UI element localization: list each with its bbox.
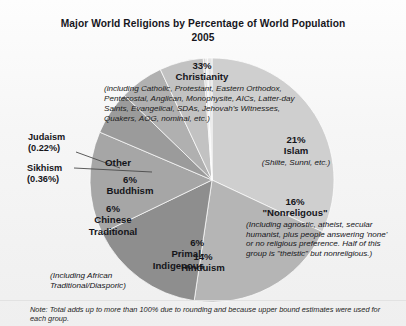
nonreligious-detail: (Including agnostic, atheist, secular hu… bbox=[222, 219, 394, 259]
primal-name-line2: Indigenous bbox=[108, 260, 204, 271]
christianity-detail: (including Catholic, Protestant, Eastern… bbox=[99, 83, 305, 124]
christianity-percent: 33% bbox=[99, 60, 305, 71]
slice-label-other: Other bbox=[105, 157, 131, 168]
judaism-percent: (0.22%) bbox=[28, 143, 102, 154]
christianity-heading: 33% Christianity bbox=[99, 60, 305, 83]
footnote-divider bbox=[0, 300, 406, 301]
chart-canvas: Major World Religions by Percentage of W… bbox=[0, 0, 406, 326]
nonreligious-name: "Nonreligous" bbox=[222, 207, 368, 218]
slice-label-islam: 21% Islam (Shiite, Sunni, etc.) bbox=[244, 134, 348, 168]
judaism-name: Judaism bbox=[28, 132, 102, 143]
islam-heading: 21% Islam bbox=[244, 134, 348, 157]
islam-percent: 21% bbox=[244, 134, 348, 145]
slice-label-sikhism: Sikhism (0.36%) bbox=[27, 163, 101, 185]
slice-label-primal-indigenous: 6% Primal- Indigenous bbox=[108, 237, 204, 271]
chart-footnote: Note: Total adds up to more than 100% du… bbox=[30, 305, 382, 323]
slice-label-christianity: 33% Christianity (including Catholic, Pr… bbox=[99, 60, 305, 123]
chinese-name-line2: Traditional bbox=[62, 226, 164, 237]
sikhism-percent: (0.36%) bbox=[27, 174, 101, 185]
primal-indigenous-detail: (Including African Traditional/Diasporic… bbox=[50, 271, 162, 290]
islam-name: Islam bbox=[244, 145, 348, 156]
nonreligious-heading: 16% "Nonreligous" bbox=[222, 196, 368, 219]
buddhism-name: Buddhism bbox=[84, 185, 176, 196]
sikhism-name: Sikhism bbox=[27, 163, 101, 174]
slice-label-judaism: Judaism (0.22%) bbox=[28, 132, 102, 154]
chinese-percent: 6% bbox=[62, 203, 164, 214]
slice-label-nonreligious: 16% "Nonreligous" (Including agnostic, a… bbox=[222, 196, 394, 259]
slice-label-chinese-traditional: 6% Chinese Traditional bbox=[62, 203, 164, 237]
primal-name-line1: Primal- bbox=[108, 248, 204, 259]
islam-detail: (Shiite, Sunni, etc.) bbox=[244, 157, 348, 168]
christianity-name: Christianity bbox=[99, 71, 305, 82]
chinese-name-line1: Chinese bbox=[62, 214, 164, 225]
primal-percent: 6% bbox=[108, 237, 204, 248]
nonreligious-percent: 16% bbox=[222, 196, 368, 207]
